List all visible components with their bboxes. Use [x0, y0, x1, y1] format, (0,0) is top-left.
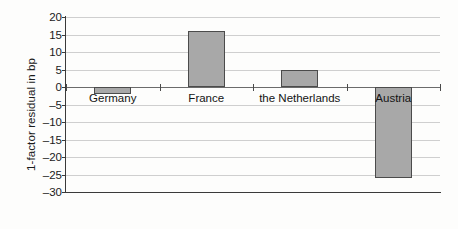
y-axis-tick-label: 20 — [36, 11, 62, 23]
x-axis-tickmark — [160, 84, 161, 91]
plot-area — [66, 17, 440, 192]
x-axis-category-label: France — [188, 92, 224, 104]
y-axis-tickmark — [62, 52, 66, 53]
x-axis-category-label: Germany — [89, 92, 136, 104]
y-axis-tick-labels: 20151050–5–10–15–20–25–30 — [36, 0, 62, 229]
chart-figure: 1-factor residual in bp 20151050–5–10–15… — [0, 0, 458, 229]
y-axis-tick-label: –25 — [36, 169, 62, 181]
y-axis-tick-label: 5 — [36, 64, 62, 76]
gridline — [66, 192, 440, 193]
y-axis-tick-label: 10 — [36, 46, 62, 58]
y-axis-tick-label: 15 — [36, 29, 62, 41]
x-axis-category-label: the Netherlands — [259, 92, 340, 104]
y-axis-tickmark — [62, 17, 66, 18]
gridline — [66, 35, 440, 36]
x-axis-category-label: Austria — [375, 92, 411, 104]
y-axis-tick-label: 0 — [36, 81, 62, 93]
gridline — [66, 17, 440, 18]
y-axis-tickmark — [62, 105, 66, 106]
x-axis-tickmark — [440, 84, 441, 91]
y-axis-tick-label: –15 — [36, 134, 62, 146]
y-axis-tick-label: –5 — [36, 99, 62, 111]
y-axis-tick-label: –20 — [36, 151, 62, 163]
x-axis-tickmark — [347, 84, 348, 91]
y-axis-tickmark — [62, 157, 66, 158]
y-axis-tickmark — [62, 122, 66, 123]
y-axis-tick-label: –10 — [36, 116, 62, 128]
y-axis-tickmark — [62, 35, 66, 36]
y-axis-tickmark — [62, 70, 66, 71]
y-axis-tickmark — [62, 192, 66, 193]
y-axis-tickmark — [62, 140, 66, 141]
gridline — [66, 52, 440, 53]
bar — [281, 70, 318, 88]
bar — [188, 31, 225, 87]
gridline — [66, 70, 440, 71]
y-axis-tick-label: –30 — [36, 186, 62, 198]
x-axis-tickmark — [253, 84, 254, 91]
x-axis-tickmark — [66, 84, 67, 91]
y-axis-tickmark — [62, 175, 66, 176]
